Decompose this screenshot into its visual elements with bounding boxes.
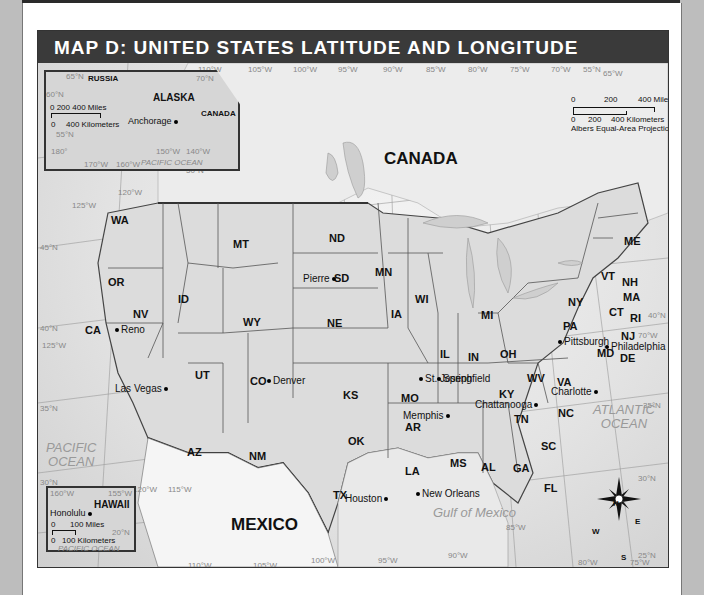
inset-scale-km: 400 Kilometers — [66, 120, 119, 129]
inset-label-russia: RUSSIA — [88, 74, 118, 83]
grid-label: 70°N — [196, 74, 214, 83]
country-label-canada: CANADA — [384, 149, 458, 169]
grid-label: 155°W — [108, 489, 132, 498]
city-label: Philadelphia — [605, 341, 666, 352]
latitude-label: 55°N — [583, 65, 601, 74]
longitude-label: 65°W — [603, 69, 623, 78]
state-label: CO — [250, 375, 267, 387]
latitude-label: 45°N — [40, 243, 58, 252]
longitude-label: 100°W — [293, 65, 317, 74]
city-label: Las Vegas — [115, 383, 170, 394]
state-label: WI — [415, 293, 428, 305]
longitude-label: 85°W — [506, 523, 526, 532]
state-label: OR — [108, 276, 125, 288]
city-label: Memphis — [403, 410, 452, 421]
longitude-label: 75°W — [510, 65, 530, 74]
state-label: WY — [243, 316, 261, 328]
state-label: FL — [544, 482, 557, 494]
state-label: MT — [233, 238, 249, 250]
state-label: RI — [630, 312, 641, 324]
longitude-label: 95°W — [338, 65, 358, 74]
city-label: Pierre — [303, 273, 338, 284]
city-dot-icon — [384, 497, 388, 501]
ocean-label-pacific: PACIFIC OCEAN — [46, 441, 96, 469]
state-label: SC — [541, 440, 556, 452]
city-dot-icon — [419, 377, 423, 381]
city-dot-icon — [115, 328, 119, 332]
inset-label-alaska: ALASKA — [153, 92, 195, 103]
longitude-label: 120°W — [133, 485, 157, 494]
alaska-inset: 65°N RUSSIA 70°N 60°N ALASKA 0 200 400 M… — [44, 70, 240, 171]
latitude-label: 40°N — [648, 311, 666, 320]
longitude-label: 105°W — [253, 561, 277, 568]
grid-label: 140°W — [186, 147, 210, 156]
state-label: MI — [481, 309, 493, 321]
scale-miles-200: 200 — [604, 95, 617, 104]
state-label: UT — [195, 369, 210, 381]
longitude-label: 70°W — [551, 65, 571, 74]
longitude-label: 125°W — [42, 341, 66, 350]
state-label: DE — [620, 352, 635, 364]
grid-label: 55°N — [56, 130, 74, 139]
city-label: Denver — [267, 375, 305, 386]
scale-km-400: 400 Kilometers — [611, 115, 664, 124]
longitude-label: 115°W — [168, 485, 192, 494]
longitude-label: 90°W — [383, 65, 403, 74]
city-label: Houston — [345, 493, 390, 504]
grid-label: 170°W — [84, 160, 108, 169]
city-dot-icon — [174, 120, 178, 124]
longitude-label: 85°W — [426, 65, 446, 74]
longitude-label: 110°W — [188, 561, 212, 568]
state-label: OH — [500, 348, 517, 360]
state-label: WA — [111, 214, 129, 226]
state-label: MO — [401, 392, 419, 404]
inset-ocean-label: PACIFIC OCEAN — [58, 544, 120, 553]
scale-miles-0: 0 — [571, 95, 575, 104]
state-label: IN — [468, 351, 479, 363]
city-label: Reno — [115, 324, 145, 335]
city-dot-icon — [534, 403, 538, 407]
city-dot-icon — [332, 277, 336, 281]
state-label: ID — [178, 293, 189, 305]
longitude-label: 100°W — [311, 556, 335, 565]
longitude-label: 125°W — [72, 201, 96, 210]
inset-scale-bar — [51, 113, 101, 118]
compass-w: W — [592, 527, 600, 536]
city-label: New Orleans — [416, 488, 480, 499]
longitude-label: 105°W — [248, 65, 272, 74]
inset-scale-km-0: 0 — [51, 536, 55, 545]
city-label: Anchorage — [128, 116, 180, 126]
state-label: ME — [624, 235, 641, 247]
city-dot-icon — [446, 414, 450, 418]
compass-rose-icon — [597, 477, 641, 521]
longitude-label: 75°W — [630, 558, 650, 567]
city-dot-icon — [605, 345, 609, 349]
longitude-label: 80°W — [578, 558, 598, 567]
city-dot-icon — [416, 492, 420, 496]
city-label: Pittsburgh — [558, 336, 609, 347]
state-label: PA — [563, 320, 577, 332]
grid-label: 160°W — [50, 489, 74, 498]
inset-label-hawaii: HAWAII — [94, 499, 130, 510]
state-label: NC — [558, 407, 574, 419]
ocean-label-gulf: Gulf of Mexico — [433, 506, 516, 520]
state-label: TN — [514, 413, 529, 425]
city-dot-icon — [594, 390, 598, 394]
longitude-label: 95°W — [378, 556, 398, 565]
state-label: LA — [405, 465, 420, 477]
scale-miles-400: 400 Miles — [638, 95, 669, 104]
city-dot-icon — [437, 377, 441, 381]
hawaii-inset: 160°W 155°W HAWAII Honolulu 0 100 Miles … — [46, 486, 136, 552]
map-frame: MAP D: UNITED STATES LATITUDE AND LONGIT… — [37, 30, 669, 568]
longitude-label: 90°W — [448, 551, 468, 560]
scale-km-200: 200 — [588, 115, 601, 124]
grid-label: 180° — [51, 147, 68, 156]
country-label-mexico: MEXICO — [231, 515, 298, 535]
state-label: NM — [249, 450, 266, 462]
state-label: ND — [329, 232, 345, 244]
latitude-label: 40°N — [40, 324, 58, 333]
inset-scale-bar — [52, 530, 76, 535]
state-label: MS — [450, 457, 467, 469]
grid-label: 160°W — [116, 160, 140, 169]
inset-scale-km-0: 0 — [51, 120, 55, 129]
